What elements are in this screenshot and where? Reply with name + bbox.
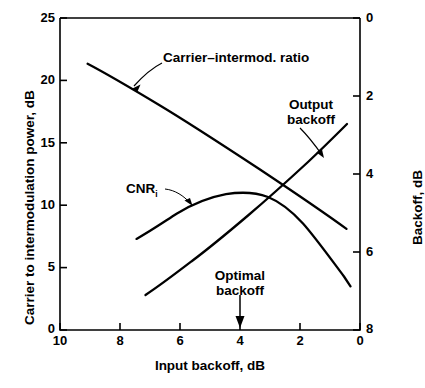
- optimal-backoff-arrow: [236, 295, 245, 328]
- carrier-intermod-leader-line: [132, 63, 163, 92]
- y-tick-label-25: 25: [39, 11, 55, 26]
- y-tick-label-15: 15: [39, 136, 55, 151]
- x-tick-label-4: 4: [230, 334, 250, 349]
- y2-axis-title: Backoff, dB: [410, 170, 425, 245]
- cnr-label-subscript: i: [155, 189, 157, 199]
- carrier-intermod-ratio-label: Carrier–intermod. ratio: [163, 50, 309, 65]
- x-tick-label-8: 8: [110, 334, 130, 349]
- y-axis-title: Carrier to intermodulation power, dB: [22, 90, 37, 325]
- curve-carrier-intermod-ratio: [88, 64, 347, 229]
- x-tick-label-2: 2: [290, 334, 310, 349]
- cnr-leader-line: [165, 189, 193, 206]
- y2-tick-label-6: 6: [366, 245, 373, 260]
- x-axis-ticks: [60, 323, 360, 330]
- optimal-backoff-label-line2: backoff: [204, 283, 276, 298]
- optimal-backoff-label-line1: Optimal: [204, 268, 276, 283]
- optimal-backoff-label: Optimal backoff: [204, 268, 276, 298]
- output-backoff-leader-line: [300, 128, 324, 158]
- y2-tick-label-0: 0: [366, 11, 373, 26]
- x-tick-label-10: 10: [50, 334, 70, 349]
- y2-tick-label-4: 4: [366, 167, 373, 182]
- x-tick-label-6: 6: [170, 334, 190, 349]
- y-tick-label-5: 5: [39, 260, 55, 275]
- x-tick-label-0: 0: [350, 334, 370, 349]
- y2-axis-ticks: [353, 18, 360, 330]
- y-tick-label-10: 10: [39, 198, 55, 213]
- cnr-label: CNRi: [126, 181, 158, 199]
- output-backoff-label-line1: Output: [275, 97, 347, 112]
- y-tick-label-20: 20: [39, 73, 55, 88]
- output-backoff-label: Output backoff: [275, 97, 347, 127]
- output-backoff-label-line2: backoff: [275, 112, 347, 127]
- x-axis-title: Input backoff, dB: [130, 358, 290, 373]
- cnr-label-text: CNR: [126, 181, 155, 196]
- y-axis-ticks: [60, 18, 67, 330]
- y2-tick-label-2: 2: [366, 89, 373, 104]
